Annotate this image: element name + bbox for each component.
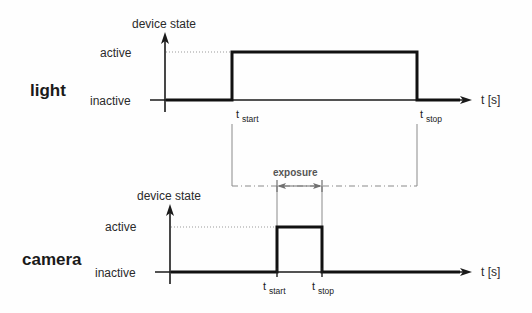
light-tstop-label: t stop [420, 108, 442, 124]
exposure-label: exposure [273, 167, 318, 178]
light-tstop-base: t [420, 108, 423, 120]
camera-ytick-inactive: inactive [95, 266, 136, 280]
timing-diagram-canvas: light device state active inactive t [s]… [0, 0, 532, 313]
light-ytick-active: active [100, 46, 132, 60]
light-signal-waveform [166, 52, 460, 100]
camera-x-axis-label: t [s] [481, 265, 500, 279]
light-y-axis-title: device state [132, 17, 196, 31]
camera-tstop-base: t [312, 280, 315, 292]
light-tstart-sub: start [242, 114, 259, 124]
camera-y-axis-title: device state [137, 189, 201, 203]
camera-tstart-label: t start [263, 280, 286, 296]
light-tstop-sub: stop [426, 114, 442, 124]
light-ytick-inactive: inactive [90, 94, 131, 108]
camera-ytick-active: active [105, 220, 137, 234]
camera-tstop-label: t stop [312, 280, 334, 296]
light-tstart-label: t start [236, 108, 259, 124]
row-label-light: light [30, 81, 66, 100]
camera-tstart-base: t [263, 280, 266, 292]
camera-tstart-sub: start [269, 286, 286, 296]
row-label-camera: camera [22, 250, 82, 269]
light-x-axis-label: t [s] [481, 93, 500, 107]
timing-diagram: light device state active inactive t [s]… [0, 0, 532, 313]
light-tstart-base: t [236, 108, 239, 120]
camera-signal-waveform [171, 227, 460, 272]
camera-tstop-sub: stop [318, 286, 334, 296]
